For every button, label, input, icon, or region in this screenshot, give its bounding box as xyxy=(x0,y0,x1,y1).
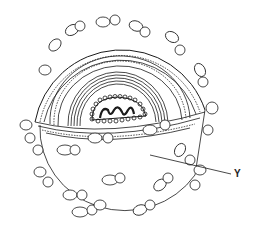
virus-illustration xyxy=(0,0,254,232)
envelope-dotted-arc xyxy=(40,55,200,122)
virus-diagram: Y xyxy=(0,0,254,232)
genome-strand xyxy=(100,107,134,118)
label-Y: Y xyxy=(234,168,241,179)
